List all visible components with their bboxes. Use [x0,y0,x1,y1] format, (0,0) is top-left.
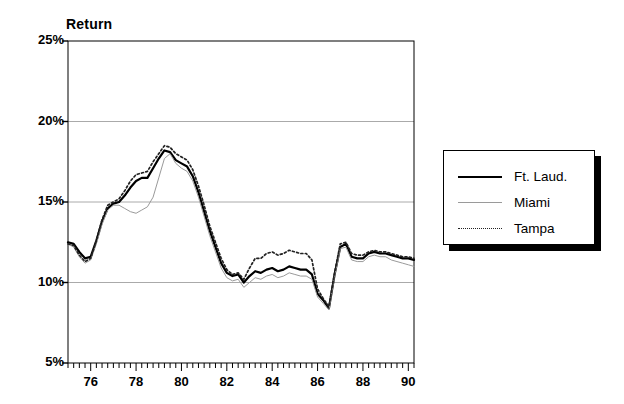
x-tick-label: 76 [74,374,108,389]
legend-label: Miami [514,195,550,210]
legend-rule [458,228,502,229]
legend-line-swatch-icon [458,196,502,208]
legend-rule [458,202,502,203]
legend-line-swatch-icon [458,222,502,234]
chart-legend: Ft. Laud.MiamiTampa [443,150,595,245]
x-tick-label: 84 [255,374,289,389]
legend-label: Ft. Laud. [514,169,567,184]
x-tick-label: 78 [119,374,153,389]
legend-item-ft-laud: Ft. Laud. [444,162,596,190]
legend-rule [458,176,502,178]
legend-line-swatch-icon [458,170,502,182]
x-tick-label: 86 [301,374,335,389]
legend-label: Tampa [514,221,555,236]
return-line-chart: Return 5%10%15%20%25% 7678808284868890 F… [0,0,624,404]
x-tick-label: 88 [346,374,380,389]
legend-item-miami: Miami [444,188,596,216]
x-tick-label: 80 [164,374,198,389]
legend-item-tampa: Tampa [444,214,596,242]
x-tick-label: 90 [391,374,425,389]
x-tick-label: 82 [210,374,244,389]
